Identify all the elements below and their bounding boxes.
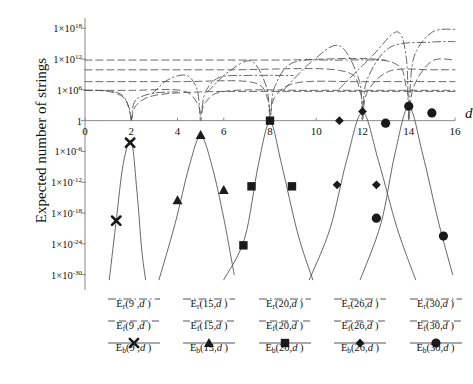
- x-axis-title: d: [465, 105, 473, 122]
- legend-label: Ef(15,d ): [172, 320, 247, 331]
- legend-entry[interactable]: Eb(30,d ): [398, 336, 473, 358]
- legend-column-15: Er(15,d )Ef(15,d )Eb(15,d ): [172, 292, 247, 358]
- series-E-f15d: [85, 89, 455, 120]
- plot-area: [85, 18, 455, 290]
- legend-label: Er(26,d ): [323, 298, 398, 309]
- marker-square: [288, 182, 296, 190]
- legend-entry[interactable]: Eb(15,d ): [172, 336, 247, 358]
- marker-square: [239, 241, 247, 249]
- y-tick-label: 1×106: [57, 84, 82, 97]
- legend-label: Er(20,d ): [247, 298, 322, 309]
- chart-canvas: [85, 18, 455, 290]
- series-line: [284, 42, 455, 113]
- legend-entry[interactable]: Ef(30,d ): [398, 314, 473, 336]
- series-E-f26d: [85, 69, 455, 121]
- legend-label: Ef(30,d ): [398, 320, 473, 331]
- legend-label: Er(9 ,d ): [96, 298, 171, 309]
- legend-label: Er(30,d ): [398, 298, 473, 309]
- marker-circle: [381, 119, 390, 128]
- x-tick-label: 0: [82, 125, 88, 137]
- marker-circle: [439, 232, 448, 241]
- series-line: [85, 69, 455, 121]
- legend-label: Eb(20,d ): [247, 342, 322, 353]
- legend-entry[interactable]: Er(9 ,d ): [96, 292, 171, 314]
- x-tick-label: 8: [267, 125, 273, 137]
- series-line: [85, 89, 455, 120]
- series-line: [85, 90, 178, 120]
- series-E-b20d: [224, 116, 313, 279]
- y-tick-label: 1×1012: [53, 53, 82, 66]
- y-axis-tick-labels: 1×10181×10121×10611×10-61×10-121×10-181×…: [0, 18, 82, 290]
- legend-label: Ef(26,d ): [323, 320, 398, 331]
- legend-entry[interactable]: Er(15,d ): [172, 292, 247, 314]
- chart-legend: Er(9 ,d )Ef(9 ,d )Eb(9 ,d )Er(15,d )Ef(1…: [96, 292, 473, 362]
- marker-triangle: [219, 185, 229, 194]
- legend-entry[interactable]: Er(20,d ): [247, 292, 322, 314]
- x-tick-label: 12: [357, 125, 368, 137]
- marker-circle: [404, 102, 413, 111]
- x-tick-label: 4: [175, 125, 181, 137]
- legend-entry[interactable]: Ef(15,d ): [172, 314, 247, 336]
- legend-entry[interactable]: Ef(9 ,d ): [96, 314, 171, 336]
- legend-entry[interactable]: Eb(20,d ): [247, 336, 322, 358]
- chart-figure: Expected number of strings 1×10181×10121…: [0, 0, 473, 384]
- marker-diamond: [372, 180, 381, 189]
- legend-column-30: Er(30,d )Ef(30,d )Eb(30,d ): [398, 292, 473, 358]
- y-tick-label: 1×10-24: [51, 238, 82, 251]
- marker-diamond: [335, 116, 344, 125]
- legend-entry[interactable]: Ef(26,d ): [323, 314, 398, 336]
- series-line: [159, 136, 234, 280]
- marker-cross: [126, 139, 134, 147]
- legend-column-26: Er(26,d )Ef(26,d )Eb(26,d ): [323, 292, 398, 358]
- legend-label: Eb(30,d ): [398, 342, 473, 353]
- legend-entry[interactable]: Eb(9 ,d ): [96, 336, 171, 358]
- marker-triangle: [196, 130, 206, 139]
- series-E-b9d: [109, 139, 145, 280]
- legend-label: Ef(20,d ): [247, 320, 322, 331]
- legend-column-9: Er(9 ,d )Ef(9 ,d )Eb(9 ,d ): [96, 292, 171, 358]
- y-tick-label: 1×10-18: [51, 207, 82, 220]
- legend-label: Er(15,d ): [172, 298, 247, 309]
- marker-circle: [427, 108, 436, 117]
- legend-entry[interactable]: Eb(26,d ): [323, 336, 398, 358]
- series-line: [224, 122, 313, 280]
- y-tick-label: 1×10-30: [51, 268, 82, 281]
- x-tick-label: 2: [129, 125, 135, 137]
- marker-diamond: [358, 107, 367, 116]
- series-line: [309, 112, 415, 279]
- marker-circle: [372, 214, 381, 223]
- legend-label: Ef(9 ,d ): [96, 320, 171, 331]
- legend-label: Eb(26,d ): [323, 342, 398, 353]
- marker-square: [266, 116, 274, 124]
- y-tick-label: 1×10-12: [51, 176, 82, 189]
- legend-entry[interactable]: Er(30,d ): [398, 292, 473, 314]
- legend-label: Eb(9 ,d ): [96, 342, 171, 353]
- series-line: [109, 140, 145, 279]
- x-tick-label: 10: [311, 125, 322, 137]
- series-E-b15d: [159, 130, 234, 280]
- x-tick-label: 16: [450, 125, 461, 137]
- legend-column-20: Er(20,d )Ef(20,d )Eb(20,d ): [247, 292, 322, 358]
- series-E-r26d: [284, 42, 455, 113]
- legend-label: Eb(15,d ): [172, 342, 247, 353]
- y-tick-label: 1×10-6: [54, 145, 82, 158]
- x-tick-label: 14: [403, 125, 414, 137]
- series-E-r9d: [85, 90, 178, 120]
- legend-entry[interactable]: Er(26,d ): [323, 292, 398, 314]
- y-tick-label: 1×1018: [53, 22, 82, 35]
- x-tick-label: 6: [221, 125, 227, 137]
- legend-entry[interactable]: Ef(20,d ): [247, 314, 322, 336]
- marker-square: [247, 182, 255, 190]
